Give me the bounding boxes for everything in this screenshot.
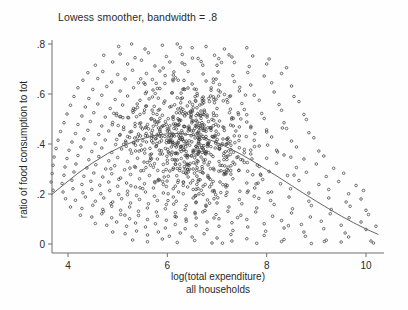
scatter-point bbox=[110, 167, 113, 170]
scatter-point bbox=[238, 198, 241, 201]
scatter-point bbox=[151, 109, 154, 112]
scatter-point bbox=[246, 170, 249, 173]
scatter-point bbox=[298, 100, 301, 103]
scatter-point bbox=[238, 135, 241, 138]
scatter-point bbox=[171, 151, 174, 154]
scatter-point bbox=[130, 152, 133, 155]
scatter-point bbox=[303, 158, 306, 161]
scatter-point bbox=[153, 162, 156, 165]
scatter-point bbox=[59, 130, 62, 133]
scatter-point bbox=[74, 199, 77, 202]
scatter-point bbox=[87, 129, 90, 132]
scatter-point bbox=[166, 180, 169, 183]
scatter-point bbox=[285, 66, 288, 69]
scatter-point bbox=[94, 142, 97, 145]
scatter-point bbox=[280, 72, 283, 75]
scatter-point bbox=[138, 177, 141, 180]
scatter-point bbox=[119, 90, 122, 93]
scatter-point bbox=[223, 158, 226, 161]
scatter-point bbox=[152, 187, 155, 190]
scatter-point bbox=[212, 78, 215, 81]
scatter-point bbox=[175, 174, 178, 177]
scatter-point bbox=[124, 214, 127, 217]
scatter-point bbox=[238, 90, 241, 93]
scatter-point bbox=[231, 240, 234, 243]
scatter-point bbox=[218, 160, 221, 163]
scatter-point bbox=[182, 184, 185, 187]
scatter-point bbox=[212, 81, 215, 84]
scatter-point bbox=[132, 86, 135, 89]
scatter-point bbox=[182, 112, 185, 115]
scatter-point bbox=[217, 133, 220, 136]
scatter-point bbox=[166, 159, 169, 162]
scatter-point bbox=[318, 150, 321, 153]
scatter-point bbox=[246, 71, 249, 74]
scatter-point bbox=[367, 213, 370, 216]
scatter-point bbox=[101, 70, 104, 73]
scatter-point bbox=[165, 55, 168, 58]
scatter-point bbox=[304, 235, 307, 238]
scatter-point bbox=[214, 147, 217, 150]
scatter-point bbox=[153, 195, 156, 198]
scatter-point bbox=[345, 201, 348, 204]
scatter-point bbox=[213, 217, 216, 220]
scatter-point bbox=[222, 183, 225, 186]
scatter-point bbox=[286, 174, 289, 177]
scatter-point bbox=[322, 155, 325, 158]
y-tick-label: .4 bbox=[37, 139, 46, 150]
scatter-point bbox=[231, 56, 234, 59]
scatter-point bbox=[200, 117, 203, 120]
scatter-point bbox=[192, 168, 195, 171]
scatter-point bbox=[232, 177, 235, 180]
scatter-point bbox=[229, 108, 232, 111]
scatter-point bbox=[213, 54, 216, 57]
scatter-point bbox=[191, 57, 194, 60]
scatter-point bbox=[194, 137, 197, 140]
scatter-point bbox=[267, 191, 270, 194]
scatter-point bbox=[88, 97, 91, 100]
scatter-point bbox=[165, 139, 168, 142]
scatter-point bbox=[253, 187, 256, 190]
scatter-point bbox=[156, 169, 159, 172]
scatter-point bbox=[303, 113, 306, 116]
scatter-point bbox=[64, 166, 67, 169]
scatter-point bbox=[104, 139, 107, 142]
scatter-point bbox=[116, 156, 119, 159]
scatter-point bbox=[120, 148, 123, 151]
scatter-point bbox=[186, 186, 189, 189]
scatter-point bbox=[372, 242, 375, 245]
scatter-point bbox=[134, 186, 137, 189]
scatter-point bbox=[360, 221, 363, 224]
scatter-point bbox=[134, 150, 137, 153]
scatter-point bbox=[265, 63, 268, 66]
scatter-point bbox=[177, 108, 180, 111]
scatter-point bbox=[187, 70, 190, 73]
scatter-point bbox=[237, 111, 240, 114]
scatter-point bbox=[218, 120, 221, 123]
scatter-point bbox=[73, 95, 76, 98]
scatter-point bbox=[146, 207, 149, 210]
scatter-point bbox=[216, 196, 219, 199]
scatter-point bbox=[184, 227, 187, 230]
scatter-point bbox=[184, 208, 187, 211]
scatter-point bbox=[102, 54, 105, 57]
scatter-point bbox=[152, 142, 155, 145]
scatter-point bbox=[69, 206, 72, 209]
scatter-point bbox=[273, 203, 276, 206]
scatter-point bbox=[162, 183, 165, 186]
scatter-point bbox=[164, 74, 167, 77]
scatter-point bbox=[145, 166, 148, 169]
scatter-point bbox=[210, 183, 213, 186]
scatter-point bbox=[152, 112, 155, 115]
scatter-point bbox=[156, 158, 159, 161]
scatter-point bbox=[263, 234, 266, 237]
scatter-point bbox=[212, 112, 215, 115]
scatter-point bbox=[108, 189, 111, 192]
scatter-point bbox=[173, 103, 176, 106]
scatter-point bbox=[238, 126, 241, 129]
scatter-point bbox=[185, 204, 188, 207]
scatter-point bbox=[263, 75, 266, 78]
scatter-point bbox=[205, 80, 208, 83]
scatter-point bbox=[142, 169, 145, 172]
scatter-point bbox=[244, 94, 247, 97]
